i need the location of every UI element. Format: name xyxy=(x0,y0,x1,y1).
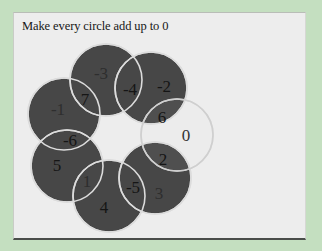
label-top-left-overlap: 7 xyxy=(81,90,90,109)
label-top-upperright-overlap: -4 xyxy=(123,80,138,99)
label-lower-right: 3 xyxy=(155,184,164,203)
label-upperright-right-overlap: 6 xyxy=(158,108,167,127)
label-bottom: 4 xyxy=(100,198,109,217)
label-lowerleft-left-overlap: -6 xyxy=(63,131,77,150)
label-left: -1 xyxy=(51,100,65,119)
label-lowerright-bottom-overlap: -5 xyxy=(126,178,140,197)
label-lower-left: 5 xyxy=(53,156,62,175)
label-right: 0 xyxy=(182,126,191,145)
label-top: -3 xyxy=(94,64,108,83)
label-upper-right: -2 xyxy=(157,77,171,96)
circle-ring-board: -3 -2 0 3 4 5 -1 7 -4 6 2 -5 1 -6 xyxy=(0,0,322,251)
label-right-lowerright-overlap: 2 xyxy=(159,150,168,169)
label-bottom-lowerleft-overlap: 1 xyxy=(83,172,92,191)
